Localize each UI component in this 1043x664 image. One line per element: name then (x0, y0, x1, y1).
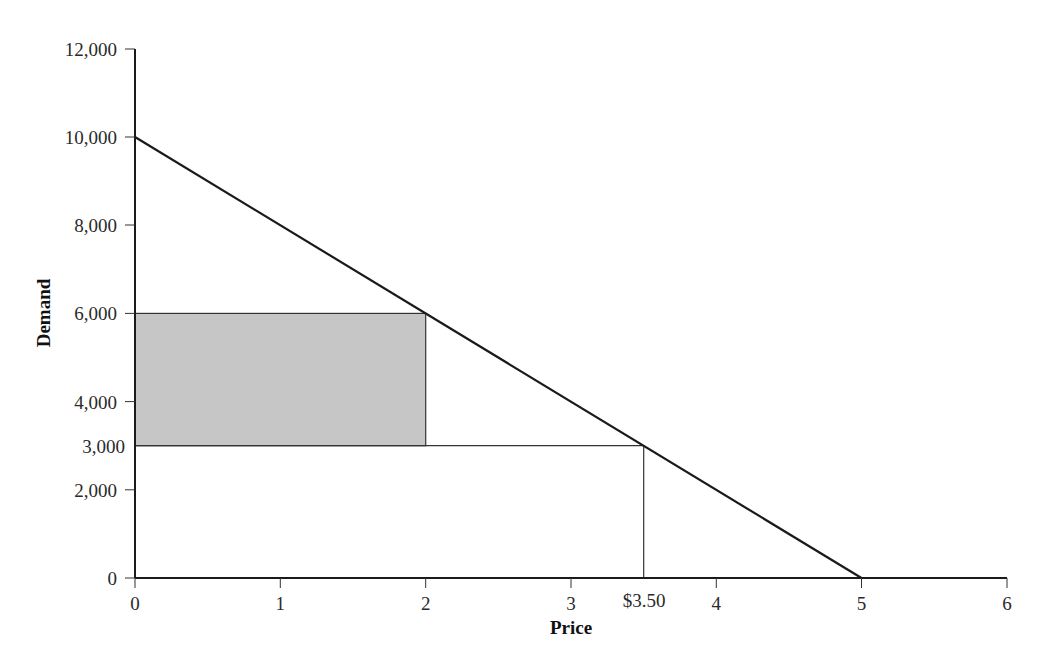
shaded-revenue-area (135, 313, 426, 445)
svg-text:1: 1 (276, 593, 286, 614)
svg-text:3,000: 3,000 (82, 436, 125, 457)
svg-text:12,000: 12,000 (65, 39, 117, 60)
x-ticks (135, 578, 1007, 588)
svg-text:6: 6 (1002, 593, 1012, 614)
y-tick-labels: 12,000 10,000 8,000 6,000 4,000 3,000 2,… (65, 39, 125, 589)
svg-text:2: 2 (421, 593, 431, 614)
y-ticks (125, 49, 135, 578)
svg-text:3: 3 (566, 593, 576, 614)
svg-text:0: 0 (108, 568, 118, 589)
svg-text:$3.50: $3.50 (623, 590, 666, 611)
svg-text:10,000: 10,000 (65, 127, 117, 148)
demand-chart: 12,000 10,000 8,000 6,000 4,000 3,000 2,… (0, 0, 1043, 664)
svg-text:0: 0 (130, 593, 140, 614)
svg-text:4,000: 4,000 (74, 392, 117, 413)
svg-text:4: 4 (712, 593, 722, 614)
svg-text:5: 5 (857, 593, 867, 614)
x-axis-title: Price (550, 617, 592, 638)
svg-text:2,000: 2,000 (74, 480, 117, 501)
x-tick-labels: 0 1 2 3 $3.50 4 5 6 (130, 590, 1012, 614)
y-axis-title: Demand (33, 278, 54, 347)
svg-text:8,000: 8,000 (74, 215, 117, 236)
svg-text:6,000: 6,000 (74, 303, 117, 324)
